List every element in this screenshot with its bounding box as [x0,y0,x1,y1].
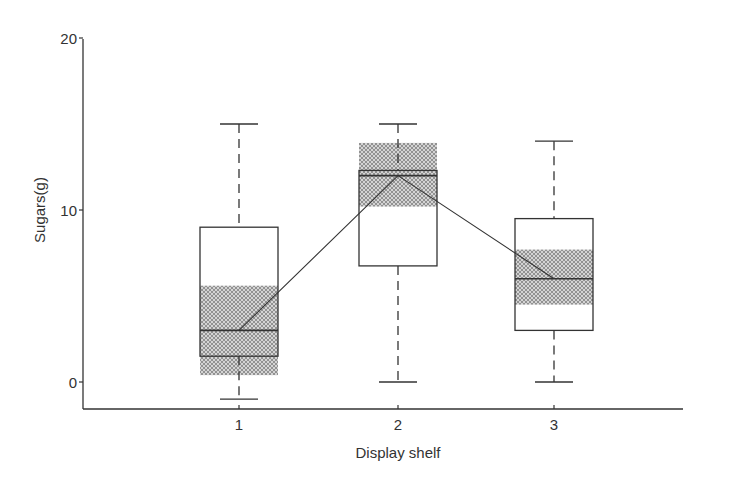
box-1 [200,124,278,399]
y-axis-label: Sugars(g) [31,177,48,243]
axes-group: 01020123 [60,30,683,433]
notch-shade [359,143,437,207]
notch-shade [515,250,593,305]
boxes-group [200,124,593,399]
y-tick-label: 0 [69,374,77,391]
boxplot-chart: 01020123 Display shelf Sugars(g) [0,0,741,481]
box-3 [515,141,593,382]
x-tick-label: 1 [235,416,243,433]
box-2 [359,124,437,382]
y-tick-label: 10 [60,202,77,219]
x-tick-label: 2 [394,416,402,433]
x-axis-label: Display shelf [355,444,441,461]
y-tick-label: 20 [60,30,77,47]
x-tick-label: 3 [550,416,558,433]
